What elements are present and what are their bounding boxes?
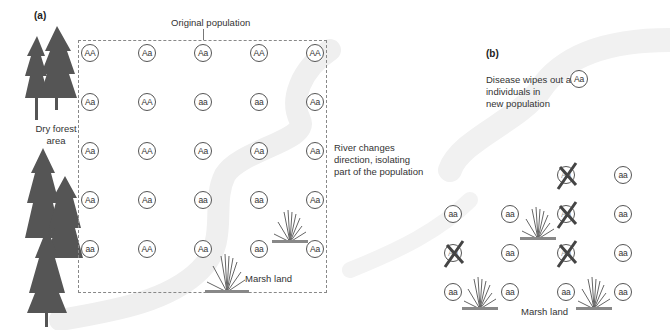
individual-circle: aa [250,93,268,111]
individual-circle: aa [614,166,632,184]
individual-circle: AA [81,44,99,62]
individual-circle: Aa [194,44,212,62]
individual-circle: AA [306,44,324,62]
disease-label-line2: individuals in [486,86,575,98]
individual-circle: Aa [306,191,324,209]
river-label-line3: part of the population [334,166,423,178]
individual-circle: aa [501,283,519,301]
tree-icon-bottom [25,148,85,328]
panel-b-label: (b) [486,48,499,59]
dry-forest-line1: Dry forest [30,123,82,135]
marsh-grass-icon [520,205,556,241]
individual-circle: Aa [306,93,324,111]
individual-circle: aa [250,240,268,258]
dry-forest-line2: area [30,135,82,147]
individual-circle-crossed: Aa [444,244,462,262]
river-label: River changes direction, isolating part … [334,142,423,178]
original-population-pointer [203,29,204,40]
individual-circle: AA [138,240,156,258]
individual-circle: aa [614,244,632,262]
individual-circle: aa [501,205,519,223]
panel-a-label: (a) [34,10,46,21]
river-label-line1: River changes [334,142,423,154]
marsh-grass-icon [462,275,498,311]
individual-circle: aa [194,93,212,111]
marsh-land-label-a: Marsh land [245,273,292,285]
original-population-label: Original population [171,17,250,29]
individual-circle: Aa [81,93,99,111]
marsh-grass-icon [576,275,612,311]
individual-circle-crossed: Aa [557,166,575,184]
disease-label: Disease wipes out all individuals in new… [486,74,575,110]
disease-genotype-circle: Aa [570,70,588,88]
individual-circle: aa [194,191,212,209]
individual-circle: aa [557,283,575,301]
marsh-grass-icon [205,250,249,294]
individual-circle: Aa [194,142,212,160]
disease-label-line1: Disease wipes out all [486,74,575,86]
individual-circle: Aa [250,142,268,160]
marsh-grass-icon [272,208,308,244]
individual-circle: Aa [306,142,324,160]
individual-circle: Aa [306,240,324,258]
individual-circle: Aa [138,191,156,209]
tree-icon-top [25,26,80,121]
river-label-line2: direction, isolating [334,154,423,166]
disease-label-line3: new population [486,98,575,110]
individual-circle: AA [138,93,156,111]
individual-circle: aa [81,240,99,258]
individual-circle: AA [250,44,268,62]
individual-circle: AA [138,142,156,160]
individual-circle: aa [250,191,268,209]
individual-circle: Aa [138,44,156,62]
individual-circle: aa [614,283,632,301]
individual-circle: aa [444,283,462,301]
individual-circle: aa [501,244,519,262]
marsh-land-label-b: Marsh land [521,306,568,318]
individual-circle-crossed: Aa [557,244,575,262]
individual-circle-crossed: Aa [557,205,575,223]
individual-circle: aa [444,205,462,223]
dry-forest-label: Dry forest area [30,123,82,147]
individual-circle: aa [614,205,632,223]
individual-circle: Aa [81,142,99,160]
individual-circle: Aa [81,191,99,209]
